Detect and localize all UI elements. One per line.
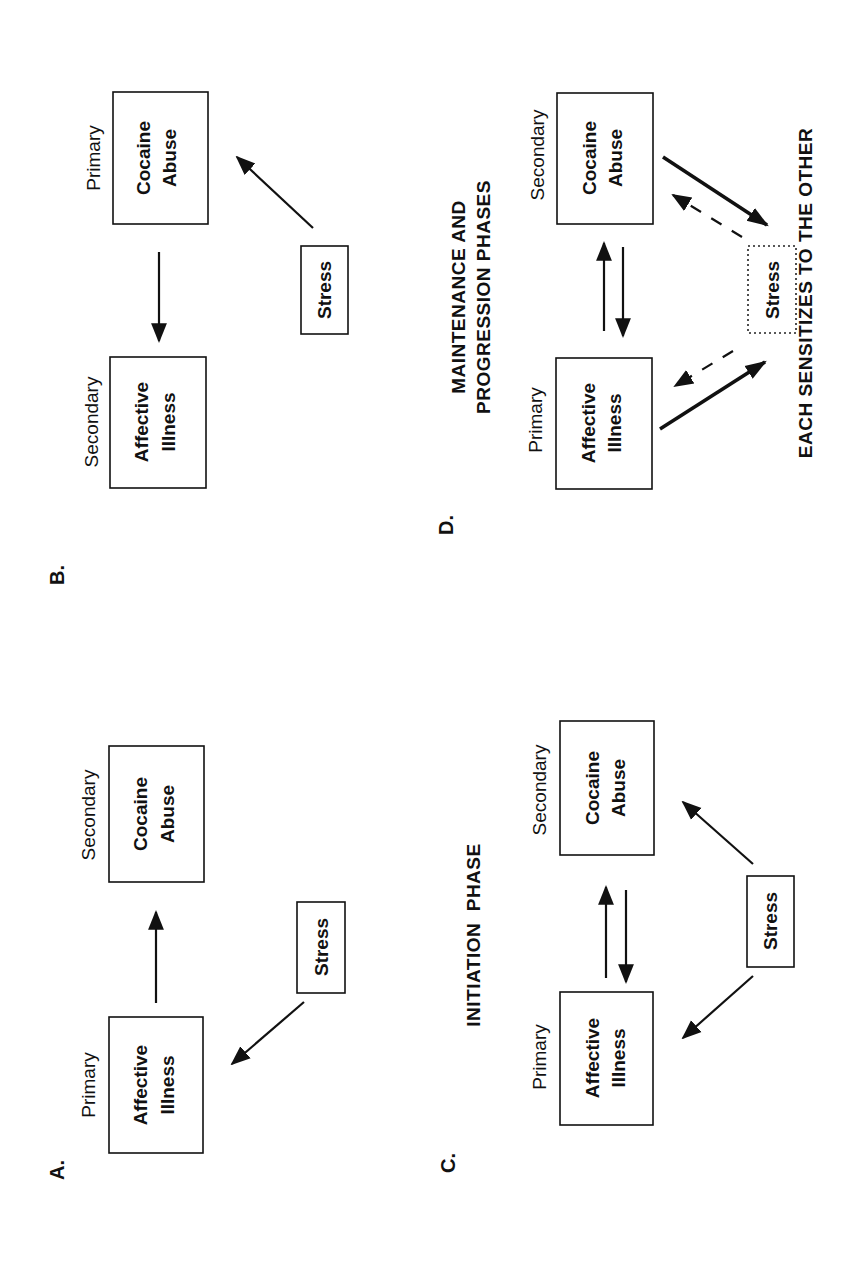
primary-label: Primary	[83, 125, 104, 191]
svg-text:Stress: Stress	[760, 892, 781, 950]
secondary-label: Secondary	[527, 109, 548, 200]
svg-text:Illness: Illness	[158, 392, 179, 451]
svg-text:Illness: Illness	[604, 393, 625, 452]
svg-text:Abuse: Abuse	[608, 759, 629, 817]
cocaine-abuse-box: Cocaine Abuse	[560, 721, 654, 855]
panel-d: D. MAINTENANCE AND PROGRESSION PHASES Pr…	[435, 93, 816, 535]
panel-title-line-1: MAINTENANCE AND	[448, 200, 469, 394]
caption-each-sensitizes: EACH SENSITIZES TO THE OTHER	[795, 128, 816, 458]
secondary-label: Secondary	[78, 769, 99, 860]
stress-box-dotted: Stress	[748, 246, 796, 333]
svg-text:Affective: Affective	[130, 1045, 151, 1125]
cocaine-abuse-box: Cocaine Abuse	[113, 92, 208, 224]
arrow-stress-to-primary	[683, 976, 753, 1038]
panel-b: B. Primary Secondary Cocaine Abuse Affec…	[46, 92, 348, 585]
primary-label: Primary	[529, 1024, 550, 1090]
panel-a: A. Primary Secondary Affective Illness C…	[46, 746, 345, 1180]
svg-text:Illness: Illness	[157, 1055, 178, 1114]
diagram-canvas: A. Primary Secondary Affective Illness C…	[0, 0, 855, 1269]
secondary-label: Secondary	[529, 744, 550, 835]
svg-text:Illness: Illness	[608, 1028, 629, 1087]
affective-illness-box: Affective Illness	[110, 357, 206, 488]
svg-text:Affective: Affective	[131, 382, 152, 462]
stress-box: Stress	[301, 246, 348, 334]
secondary-label: Secondary	[81, 376, 102, 467]
stress-box: Stress	[747, 876, 794, 967]
cocaine-abuse-box: Cocaine Abuse	[109, 746, 204, 882]
arrow-stress-to-primary	[232, 1002, 304, 1064]
svg-text:Affective: Affective	[578, 383, 599, 463]
svg-text:Stress: Stress	[314, 261, 335, 319]
svg-text:Abuse: Abuse	[605, 129, 626, 187]
arrow-stress-to-secondary	[683, 802, 753, 864]
svg-text:Cocaine: Cocaine	[579, 121, 600, 195]
svg-text:Stress: Stress	[311, 918, 332, 976]
panel-c: C. INITIATION PHASE Primary Secondary Af…	[437, 721, 794, 1173]
panel-title: INITIATION PHASE	[463, 843, 484, 1026]
arrow-affective-to-stress	[660, 362, 765, 429]
svg-text:Cocaine: Cocaine	[582, 751, 603, 825]
cocaine-abuse-box: Cocaine Abuse	[557, 93, 653, 224]
panel-letter-a: A.	[46, 1160, 68, 1180]
svg-text:Abuse: Abuse	[159, 129, 180, 187]
primary-label: Primary	[525, 387, 546, 453]
panel-letter-b: B.	[46, 565, 68, 585]
arrow-cocaine-to-stress	[663, 157, 767, 225]
svg-text:Abuse: Abuse	[157, 785, 178, 843]
stress-box: Stress	[297, 902, 345, 993]
affective-illness-box: Affective Illness	[556, 358, 652, 489]
panel-letter-c: C.	[437, 1153, 459, 1173]
svg-text:Stress: Stress	[762, 261, 783, 319]
primary-label: Primary	[78, 1052, 99, 1118]
panel-letter-d: D.	[435, 515, 457, 535]
arrow-stress-to-affective-dashed	[675, 351, 733, 386]
affective-illness-box: Affective Illness	[109, 1017, 203, 1153]
svg-text:Cocaine: Cocaine	[130, 777, 151, 851]
arrow-stress-to-primary	[237, 157, 313, 228]
figure-svg: A. Primary Secondary Affective Illness C…	[0, 0, 855, 1269]
affective-illness-box: Affective Illness	[560, 992, 653, 1125]
panel-title-line-2: PROGRESSION PHASES	[473, 180, 494, 414]
svg-text:Cocaine: Cocaine	[133, 121, 154, 195]
svg-text:Affective: Affective	[582, 1018, 603, 1098]
